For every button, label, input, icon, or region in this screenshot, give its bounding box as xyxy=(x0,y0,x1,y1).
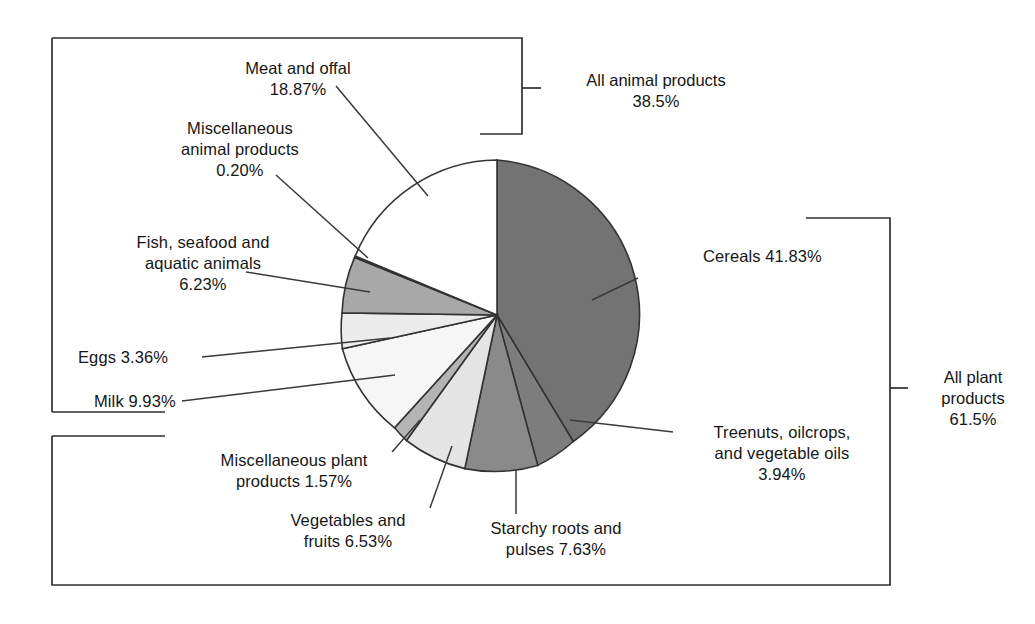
label-starchy-roots: Starchy roots and pulses 7.63% xyxy=(460,518,652,560)
leader-meat-offal xyxy=(336,86,428,196)
label-treenuts: Treenuts, oilcrops, and vegetable oils 3… xyxy=(684,422,880,485)
label-cereals: Cereals 41.83% xyxy=(703,246,923,267)
group-label-all-plant-products: All plant products 61.5% xyxy=(914,367,1032,430)
label-fish: Fish, seafood and aquatic animals 6.23% xyxy=(108,232,298,295)
pie-chart-figure: Meat and offal 18.87% Miscellaneous anim… xyxy=(0,0,1035,624)
label-eggs: Eggs 3.36% xyxy=(78,347,228,368)
pie-slices xyxy=(341,160,639,472)
group-label-all-animal-products: All animal products 38.5% xyxy=(548,70,764,112)
label-misc-animal: Miscellaneous animal products 0.20% xyxy=(140,118,340,181)
label-vegetables-fruits: Vegetables and fruits 6.53% xyxy=(248,510,448,552)
label-milk: Milk 9.93% xyxy=(94,391,244,412)
label-meat-offal: Meat and offal 18.87% xyxy=(198,58,398,100)
label-misc-plant: Miscellaneous plant products 1.57% xyxy=(186,450,402,492)
